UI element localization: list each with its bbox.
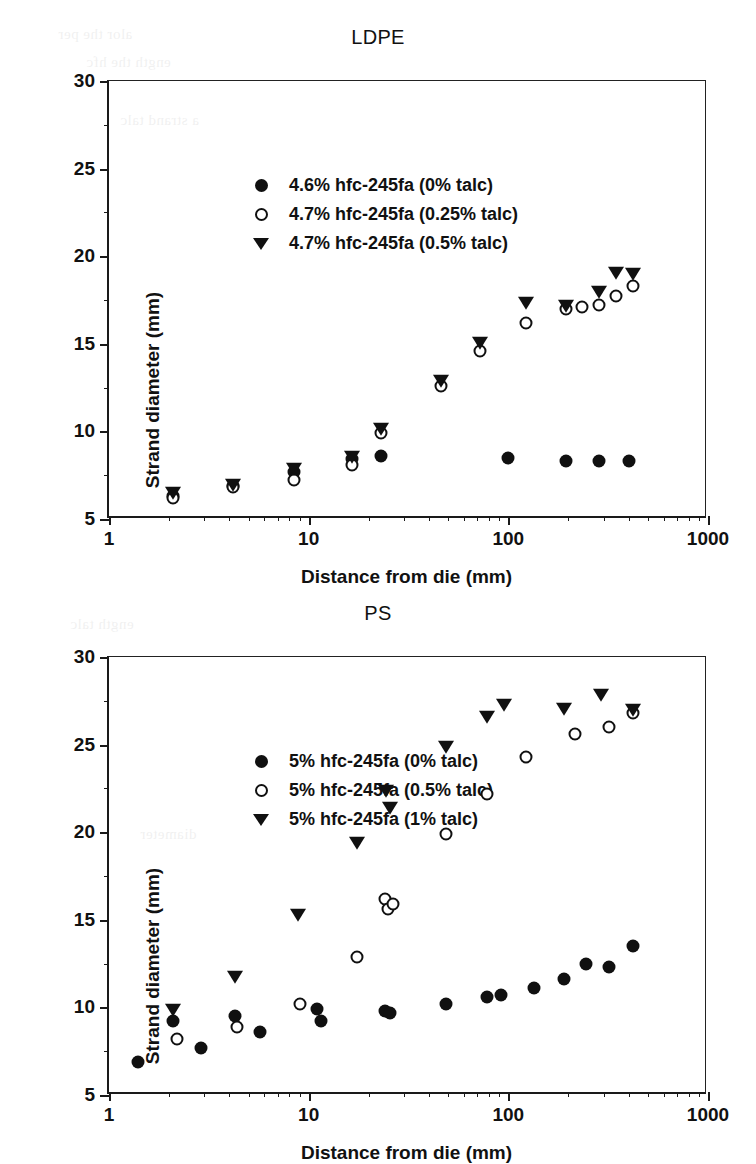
data-point xyxy=(518,296,534,309)
x-tick-minor xyxy=(477,516,478,521)
data-point xyxy=(625,704,641,717)
x-tick-minor xyxy=(664,1092,665,1097)
x-tick-minor xyxy=(429,1092,430,1097)
x-tick xyxy=(508,1092,510,1101)
plot-area-ldpe: 4.6% hfc-245fa (0% talc) 4.7% hfc-245fa … xyxy=(107,80,706,518)
y-tick-label: 10 xyxy=(74,996,95,1018)
y-tick xyxy=(100,1007,109,1009)
x-tick-minor xyxy=(489,1092,490,1097)
x-tick-minor xyxy=(499,516,500,521)
x-tick-label: 10 xyxy=(298,528,319,550)
x-tick-minor xyxy=(429,516,430,521)
y-tick xyxy=(100,256,109,258)
x-tick xyxy=(109,516,111,525)
x-tick-minor xyxy=(289,1092,290,1097)
data-point xyxy=(593,688,609,701)
data-point xyxy=(286,463,302,476)
x-tick-minor xyxy=(300,1092,301,1097)
x-tick-minor xyxy=(629,516,630,521)
chart-title-ps: PS xyxy=(0,602,756,625)
x-tick xyxy=(508,516,510,525)
x-tick-minor xyxy=(448,516,449,521)
x-tick-minor xyxy=(499,1092,500,1097)
x-tick-minor xyxy=(464,1092,465,1097)
data-point xyxy=(433,375,449,388)
x-tick xyxy=(309,1092,311,1101)
chart-title-ldpe: LDPE xyxy=(0,26,756,49)
y-tick-label: 10 xyxy=(74,420,95,442)
data-point xyxy=(290,909,306,922)
y-tick-label: 25 xyxy=(74,158,95,180)
x-tick-label: 1 xyxy=(104,1104,115,1126)
x-tick xyxy=(309,516,311,525)
x-tick-minor xyxy=(278,1092,279,1097)
x-tick-minor xyxy=(689,1092,690,1097)
x-tick-minor xyxy=(249,516,250,521)
series-points-triangle xyxy=(109,81,705,516)
x-axis-title: Distance from die (mm) xyxy=(107,1142,706,1164)
x-tick xyxy=(708,516,710,525)
x-tick-minor xyxy=(677,1092,678,1097)
chart-ps: ength talc diameter PS 5% hfc-245fa (0% … xyxy=(0,576,756,1152)
x-tick-minor xyxy=(629,1092,630,1097)
x-tick xyxy=(708,1092,710,1101)
x-tick-minor xyxy=(169,1092,170,1097)
data-point xyxy=(382,802,398,815)
data-point xyxy=(227,970,243,983)
x-tick-minor xyxy=(677,516,678,521)
x-tick-minor xyxy=(664,516,665,521)
x-tick-minor xyxy=(477,1092,478,1097)
x-tick-label: 100 xyxy=(492,1104,524,1126)
y-tick xyxy=(100,169,109,171)
x-tick-label: 1000 xyxy=(687,528,729,550)
y-tick xyxy=(100,745,109,747)
x-tick-minor xyxy=(204,1092,205,1097)
data-point xyxy=(344,451,360,464)
y-tick-label: 30 xyxy=(74,646,95,668)
y-tick xyxy=(100,832,109,834)
x-tick-minor xyxy=(229,516,230,521)
x-tick-minor xyxy=(264,516,265,521)
x-tick-minor xyxy=(648,1092,649,1097)
data-point xyxy=(349,837,365,850)
x-tick-minor xyxy=(278,516,279,521)
y-tick-label: 5 xyxy=(84,1084,95,1106)
data-point xyxy=(165,487,181,500)
x-tick-minor xyxy=(604,1092,605,1097)
data-point xyxy=(438,741,454,754)
y-tick xyxy=(100,344,109,346)
x-tick-minor xyxy=(568,1092,569,1097)
x-tick-minor xyxy=(404,516,405,521)
x-tick-label: 100 xyxy=(492,528,524,550)
y-tick-label: 5 xyxy=(84,508,95,530)
x-tick-minor xyxy=(229,1092,230,1097)
data-point xyxy=(558,300,574,313)
x-tick-minor xyxy=(404,1092,405,1097)
series-points-triangle xyxy=(109,657,705,1092)
x-tick-label: 10 xyxy=(298,1104,319,1126)
data-point xyxy=(625,268,641,281)
y-tick xyxy=(100,920,109,922)
data-point xyxy=(165,1004,181,1017)
y-tick-label: 20 xyxy=(74,821,95,843)
x-tick xyxy=(109,1092,111,1101)
data-point xyxy=(225,479,241,492)
y-tick xyxy=(100,431,109,433)
y-tick xyxy=(100,81,109,83)
data-point xyxy=(472,337,488,350)
x-tick-minor xyxy=(604,516,605,521)
data-point xyxy=(479,711,495,724)
chart-ldpe: alor the per ength the hfc a strand talc… xyxy=(0,0,756,576)
x-tick-minor xyxy=(204,516,205,521)
scan-artifact: ength the hfc xyxy=(86,54,171,71)
x-tick-minor xyxy=(369,1092,370,1097)
x-tick-minor xyxy=(249,1092,250,1097)
y-tick-label: 15 xyxy=(74,909,95,931)
y-tick-label: 15 xyxy=(74,333,95,355)
x-tick-minor xyxy=(264,1092,265,1097)
x-tick-minor xyxy=(369,516,370,521)
x-tick-minor xyxy=(169,516,170,521)
y-tick xyxy=(100,1095,109,1097)
x-tick-minor xyxy=(648,516,649,521)
